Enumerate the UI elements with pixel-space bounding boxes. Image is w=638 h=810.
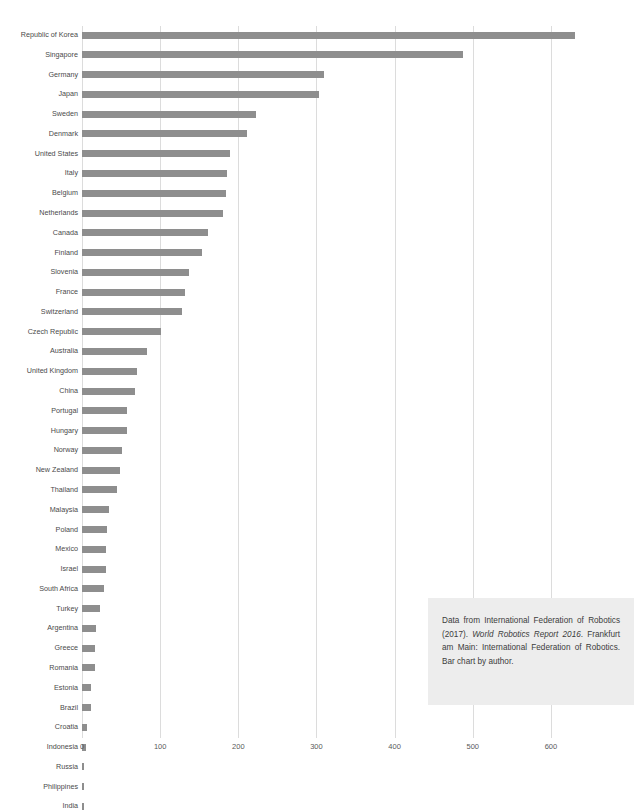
bar <box>82 724 87 731</box>
y-axis-label: United Kingdom <box>0 367 78 375</box>
bar <box>82 803 84 810</box>
y-axis-label: Netherlands <box>0 209 78 217</box>
bar <box>82 566 106 573</box>
y-axis-labels: Republic of KoreaSingaporeGermanyJapanSw… <box>0 0 78 775</box>
bar <box>82 783 84 790</box>
y-axis-label: Slovenia <box>0 268 78 276</box>
x-tick-label: 200 <box>218 742 258 751</box>
y-axis-label: Hungary <box>0 427 78 435</box>
y-axis-label: Greece <box>0 644 78 652</box>
bar <box>82 447 122 454</box>
bar <box>82 91 319 98</box>
y-axis-label: Estonia <box>0 684 78 692</box>
y-axis-label: Poland <box>0 526 78 534</box>
bar <box>82 249 202 256</box>
bar <box>82 625 96 632</box>
bar <box>82 229 208 236</box>
bar <box>82 704 91 711</box>
y-axis-label: Japan <box>0 90 78 98</box>
bar <box>82 170 227 177</box>
source-caption-box: Data from International Federation of Ro… <box>428 598 634 705</box>
bar <box>82 269 189 276</box>
bar <box>82 427 127 434</box>
bar <box>82 111 256 118</box>
bar <box>82 645 95 652</box>
x-tick-label: 100 <box>140 742 180 751</box>
y-axis-label: Norway <box>0 446 78 454</box>
bar <box>82 467 120 474</box>
bar <box>82 526 107 533</box>
y-axis-label: France <box>0 288 78 296</box>
bar <box>82 348 147 355</box>
bar <box>82 210 223 217</box>
y-axis-label: Brazil <box>0 704 78 712</box>
y-axis-label: Sweden <box>0 110 78 118</box>
bar <box>82 32 575 39</box>
source-caption-text: Data from International Federation of Ro… <box>442 614 620 668</box>
y-axis-label: Canada <box>0 229 78 237</box>
y-axis-label: Belgium <box>0 189 78 197</box>
bar <box>82 71 324 78</box>
y-axis-label: New Zealand <box>0 466 78 474</box>
bar <box>82 407 127 414</box>
y-axis-label: Turkey <box>0 605 78 613</box>
bar <box>82 328 161 335</box>
x-tick-label: 500 <box>453 742 493 751</box>
x-tick-label: 300 <box>296 742 336 751</box>
y-axis-label: Israel <box>0 565 78 573</box>
bar <box>82 190 226 197</box>
bar <box>82 664 95 671</box>
y-axis-label: Switzerland <box>0 308 78 316</box>
y-axis-label: Philippines <box>0 783 78 791</box>
y-axis-label: Mexico <box>0 545 78 553</box>
bar <box>82 506 109 513</box>
x-tick-label: 400 <box>375 742 415 751</box>
y-axis-label: Denmark <box>0 130 78 138</box>
bar <box>82 585 104 592</box>
y-axis-label: China <box>0 387 78 395</box>
gridline-300 <box>316 26 317 738</box>
bar <box>82 289 185 296</box>
bar <box>82 150 230 157</box>
y-axis-label: Argentina <box>0 624 78 632</box>
y-axis-label: India <box>0 802 78 810</box>
y-axis-label: Malaysia <box>0 506 78 514</box>
bar <box>82 546 106 553</box>
y-axis-label: Thailand <box>0 486 78 494</box>
bar <box>82 51 463 58</box>
y-axis-label: Australia <box>0 347 78 355</box>
gridline-400 <box>395 26 396 738</box>
bar <box>82 486 117 493</box>
y-axis-label: Italy <box>0 169 78 177</box>
y-axis-label: Russia <box>0 763 78 771</box>
y-axis-label: Portugal <box>0 407 78 415</box>
y-axis-label: United States <box>0 150 78 158</box>
y-axis-label: Czech Republic <box>0 328 78 336</box>
bar <box>82 130 247 137</box>
y-axis-label: Finland <box>0 249 78 257</box>
bar <box>82 308 182 315</box>
bar <box>82 763 84 770</box>
x-tick-label: 0 <box>62 742 102 751</box>
y-axis-label: Germany <box>0 71 78 79</box>
bar <box>82 605 100 612</box>
y-axis-label: South Africa <box>0 585 78 593</box>
y-axis-label: Croatia <box>0 723 78 731</box>
bar <box>82 388 135 395</box>
bar <box>82 684 91 691</box>
x-tick-label: 600 <box>531 742 571 751</box>
caption-italic-title: World Robotics Report 2016 <box>472 630 581 639</box>
y-axis-label: Republic of Korea <box>0 31 78 39</box>
y-axis-label: Romania <box>0 664 78 672</box>
bar <box>82 368 137 375</box>
y-axis-label: Singapore <box>0 51 78 59</box>
